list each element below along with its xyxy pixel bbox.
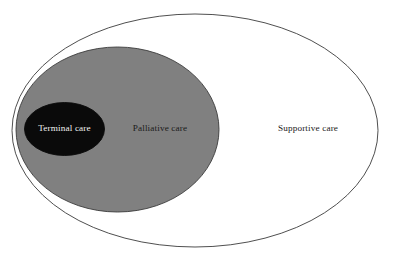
diagram-canvas: Supportive care Palliative care Terminal… [0,0,400,260]
nested-ellipse-diagram: Supportive care Palliative care Terminal… [0,0,400,260]
label-supportive-care: Supportive care [278,123,338,133]
label-palliative-care: Palliative care [133,123,188,133]
label-terminal-care: Terminal care [38,123,91,133]
